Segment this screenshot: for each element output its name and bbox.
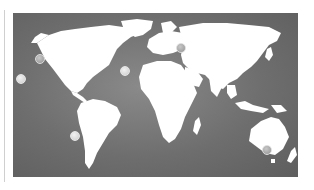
indonesia [235, 101, 269, 113]
new-guinea [271, 105, 287, 113]
left-divider [4, 10, 5, 182]
map-marker-us-west-coast[interactable] [35, 54, 45, 64]
map-marker-offmap-pacific[interactable] [16, 74, 26, 84]
south-america [77, 99, 121, 169]
map-marker-caucasus[interactable] [176, 43, 186, 53]
map-marker-se-australia[interactable] [262, 145, 272, 155]
japan [265, 47, 273, 61]
map-marker-west-africa[interactable] [120, 66, 130, 76]
southeast-asia [227, 85, 237, 99]
map-marker-chile[interactable] [70, 131, 80, 141]
madagascar [193, 117, 201, 135]
tasmania [271, 159, 275, 163]
continents-layer [13, 13, 298, 177]
world-map[interactable] [13, 13, 298, 177]
scandinavia [161, 21, 177, 33]
new-zealand [287, 147, 297, 163]
north-america [37, 25, 147, 93]
central-america [71, 91, 87, 103]
